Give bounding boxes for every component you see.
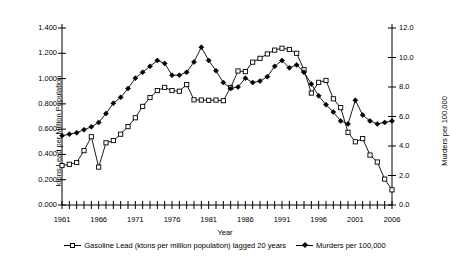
y-tick-label-left-6: 1.200 [19, 48, 57, 57]
data-point [170, 73, 175, 78]
y-tick-label-left-3: 0.600 [19, 124, 57, 133]
x-tick-label-1: 1966 [83, 215, 115, 224]
y-tick-label-right-5: 10.0 [399, 53, 429, 62]
legend-item-gasoline-lead: Gasoline Lead (ktons per million populat… [64, 241, 286, 250]
data-point [258, 56, 262, 60]
data-point [258, 79, 263, 84]
x-tick-label-0: 1961 [46, 215, 78, 224]
data-point [346, 130, 350, 134]
lead-murder-line-chart: ktons Lead per Million Population Murder… [0, 0, 450, 261]
data-point [324, 78, 328, 82]
data-point [265, 52, 269, 56]
data-point [199, 98, 203, 102]
y-tick-label-right-4: 8.0 [399, 82, 429, 91]
data-point [236, 69, 240, 73]
filled-diamond-marker-icon [296, 242, 313, 250]
data-point [82, 149, 86, 153]
data-point [214, 98, 218, 102]
x-tick-label-4: 1981 [193, 215, 225, 224]
data-point [67, 132, 72, 137]
data-point [60, 133, 65, 138]
legend-label-gasoline-lead: Gasoline Lead (ktons per million populat… [84, 241, 286, 250]
data-point [382, 120, 387, 125]
data-point [353, 140, 357, 144]
data-point [192, 98, 196, 102]
data-point [97, 165, 101, 169]
y-tick-label-left-1: 0.200 [19, 175, 57, 184]
data-point [104, 141, 108, 145]
data-point [207, 98, 211, 102]
data-point [273, 48, 277, 52]
data-point [75, 160, 79, 164]
y-tick-label-right-0: 0.0 [399, 200, 429, 209]
x-tick-label-8: 2001 [339, 215, 371, 224]
data-point [119, 132, 123, 136]
x-tick-label-5: 1986 [229, 215, 261, 224]
chart-legend: Gasoline Lead (ktons per million populat… [0, 241, 450, 250]
data-point [250, 80, 255, 85]
data-point [251, 60, 255, 64]
data-point [177, 73, 182, 78]
data-point [141, 104, 145, 108]
data-point [368, 153, 372, 157]
x-tick-label-9: 2006 [376, 215, 408, 224]
data-point [287, 47, 291, 51]
series-murders [60, 45, 395, 139]
open-square-marker-icon [64, 242, 81, 250]
y-tick-label-left-7: 1.400 [19, 23, 57, 32]
data-point [280, 46, 284, 50]
data-point [221, 99, 225, 103]
series-line [62, 48, 392, 190]
data-point [162, 61, 167, 66]
data-point [317, 80, 321, 84]
y-tick-label-left-4: 0.800 [19, 99, 57, 108]
data-point [199, 45, 204, 50]
y-tick-label-left-2: 0.400 [19, 149, 57, 158]
data-point [309, 91, 313, 95]
data-point [375, 160, 379, 164]
data-point [177, 89, 181, 93]
data-point [148, 95, 152, 99]
data-point [390, 188, 394, 192]
data-point [353, 98, 358, 103]
data-point [339, 106, 343, 110]
x-tick-label-2: 1971 [119, 215, 151, 224]
data-point [126, 125, 130, 129]
y-tick-label-right-2: 4.0 [399, 141, 429, 150]
y-tick-label-left-5: 1.000 [19, 74, 57, 83]
y-tick-label-left-0: 0.000 [19, 200, 57, 209]
data-point [89, 124, 94, 129]
x-tick-label-6: 1991 [266, 215, 298, 224]
data-point [309, 82, 314, 87]
data-point [163, 85, 167, 89]
data-point [361, 137, 365, 141]
legend-item-murders: Murders per 100,000 [296, 241, 386, 250]
series-line [62, 47, 392, 135]
data-point [185, 83, 189, 87]
y-tick-label-right-6: 12.0 [399, 23, 429, 32]
data-point [243, 70, 247, 74]
data-point [170, 88, 174, 92]
legend-label-murders: Murders per 100,000 [316, 241, 386, 250]
data-point [111, 138, 115, 142]
data-point [89, 135, 93, 139]
data-point [133, 116, 137, 120]
data-point [383, 177, 387, 181]
series-gasoline-lead [60, 46, 394, 192]
data-point [74, 130, 79, 135]
data-point [295, 51, 299, 55]
data-point [67, 162, 71, 166]
data-point [82, 127, 87, 132]
data-point [331, 97, 335, 101]
x-tick-label-7: 1996 [303, 215, 335, 224]
x-tick-label-3: 1976 [156, 215, 188, 224]
data-point [60, 163, 64, 167]
y-tick-label-right-1: 2.0 [399, 171, 429, 180]
y-tick-label-right-3: 6.0 [399, 112, 429, 121]
data-point [390, 118, 395, 123]
data-point [155, 88, 159, 92]
data-point [375, 121, 380, 126]
